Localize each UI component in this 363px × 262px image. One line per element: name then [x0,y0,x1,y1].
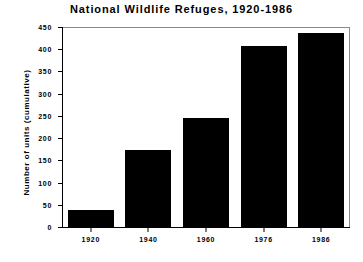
y-axis-tick [58,183,62,184]
bar-1940 [125,150,171,227]
bar-1920 [68,210,114,227]
bar-1960 [183,118,229,227]
y-axis-tick [58,71,62,72]
x-axis-tick-label: 1976 [254,236,272,243]
frame-top-line [62,27,350,28]
x-axis-tick [206,227,207,232]
chart-screenshot: National Wildlife Refuges, 1920-1986 Num… [0,0,363,262]
x-axis-tick [321,227,322,232]
frame-right-line [349,27,350,227]
y-axis-tick-label: 100 [38,179,52,186]
y-axis-tick-label: 200 [38,135,52,142]
y-axis-tick-label: 250 [38,112,52,119]
y-axis-tick [58,27,62,28]
y-axis-tick-label: 300 [38,90,52,97]
y-axis-tick-label: 0 [47,224,52,231]
y-axis-tick-label: 50 [43,201,52,208]
y-axis-tick [58,160,62,161]
page-title: National Wildlife Refuges, 1920-1986 [0,3,363,15]
y-axis-title: Number of units (cumulative) [22,53,31,213]
y-axis-line [62,27,63,227]
x-axis-tick-label: 1960 [197,236,215,243]
y-axis-tick [58,94,62,95]
y-axis-tick-label: 450 [38,24,52,31]
y-axis-tick [58,49,62,50]
x-axis-tick-label: 1920 [82,236,100,243]
y-axis-tick [58,138,62,139]
plot-area: 050100150200250300350400450 192019401960… [62,27,350,227]
y-axis-tick [58,227,62,228]
x-axis-tick-label: 1986 [312,236,330,243]
bar-1976 [241,46,287,227]
y-axis-tick [58,205,62,206]
x-axis-tick [148,227,149,232]
x-axis-tick [263,227,264,232]
y-axis-tick-label: 400 [38,46,52,53]
y-axis-tick-label: 150 [38,157,52,164]
bar-1986 [298,33,344,227]
y-axis-tick-label: 350 [38,68,52,75]
x-axis-tick-label: 1940 [139,236,157,243]
y-axis-tick [58,116,62,117]
x-axis-tick [90,227,91,232]
